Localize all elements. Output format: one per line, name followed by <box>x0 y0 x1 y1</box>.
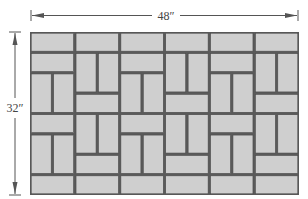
brick <box>188 54 208 92</box>
brick <box>188 115 208 153</box>
brick <box>121 135 141 173</box>
brick <box>121 74 141 112</box>
brick <box>233 135 253 173</box>
brick <box>98 115 118 153</box>
brick <box>31 33 73 51</box>
brick <box>121 33 163 51</box>
brick <box>143 135 163 173</box>
brick <box>211 176 253 194</box>
brick <box>31 74 51 112</box>
brick <box>211 33 253 51</box>
brick <box>76 54 96 92</box>
brick <box>166 176 208 194</box>
brick <box>31 135 51 173</box>
brick <box>76 94 118 112</box>
brick <box>166 54 186 92</box>
brick <box>211 115 253 133</box>
brick <box>76 155 118 173</box>
arrow-down-icon <box>13 182 18 194</box>
brick <box>54 74 74 112</box>
brick <box>211 54 253 72</box>
brick <box>31 54 73 72</box>
brick <box>166 115 186 153</box>
brick <box>166 94 208 112</box>
brick <box>54 135 74 173</box>
brick <box>255 54 275 92</box>
brick <box>255 115 275 153</box>
width-label: 48″ <box>158 9 175 23</box>
brick-pattern-diagram: 48″ 32″ <box>0 0 308 199</box>
brick <box>278 54 298 92</box>
brick <box>278 115 298 153</box>
brick <box>121 176 163 194</box>
height-label: 32″ <box>7 101 24 115</box>
brick <box>166 155 208 173</box>
brick <box>255 33 297 51</box>
arrow-left-icon <box>32 13 44 18</box>
brick <box>255 94 297 112</box>
brick <box>31 115 73 133</box>
brick <box>76 33 118 51</box>
brick <box>166 33 208 51</box>
brick <box>255 176 297 194</box>
brick <box>233 74 253 112</box>
brick <box>211 74 231 112</box>
arrow-up-icon <box>13 33 18 45</box>
brick <box>98 54 118 92</box>
brick <box>121 115 163 133</box>
brick <box>121 54 163 72</box>
arrow-right-icon <box>285 13 297 18</box>
brick <box>255 155 297 173</box>
brick <box>211 135 231 173</box>
brick <box>31 176 73 194</box>
brick <box>143 74 163 112</box>
brick <box>76 115 96 153</box>
brick <box>76 176 118 194</box>
